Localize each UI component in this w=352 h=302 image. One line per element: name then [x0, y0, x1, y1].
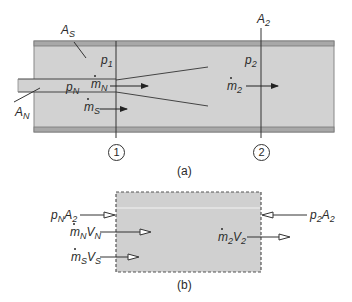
label-A-S: AS: [61, 24, 75, 39]
label-mdot-S: mS: [84, 101, 100, 116]
label-mN-VN: mNVN: [70, 226, 101, 241]
label-pN-A2: pNA2: [51, 209, 77, 224]
label-mdot-2: m2: [227, 80, 242, 95]
label-A-2: A2: [257, 13, 270, 28]
label-m2-V2: m2V2: [218, 231, 246, 246]
label-p-N: pN: [66, 81, 79, 96]
label-A-N: AN: [15, 106, 30, 121]
station-2-marker: 2: [253, 144, 270, 161]
caption-a: (a): [177, 165, 192, 177]
arrow-pN-A2: [80, 212, 115, 218]
label-p2-A2: p2A2: [310, 209, 335, 224]
arrow-p2-A2: [262, 212, 307, 218]
diagram-canvas: [0, 0, 352, 302]
label-mdot-N: mN: [91, 78, 108, 93]
label-mS-VS: mSVS: [71, 251, 101, 266]
label-p-1: p1: [101, 54, 113, 69]
label-p-2: p2: [245, 54, 257, 69]
caption-b: (b): [177, 279, 192, 291]
station-1-marker: 1: [108, 144, 125, 161]
